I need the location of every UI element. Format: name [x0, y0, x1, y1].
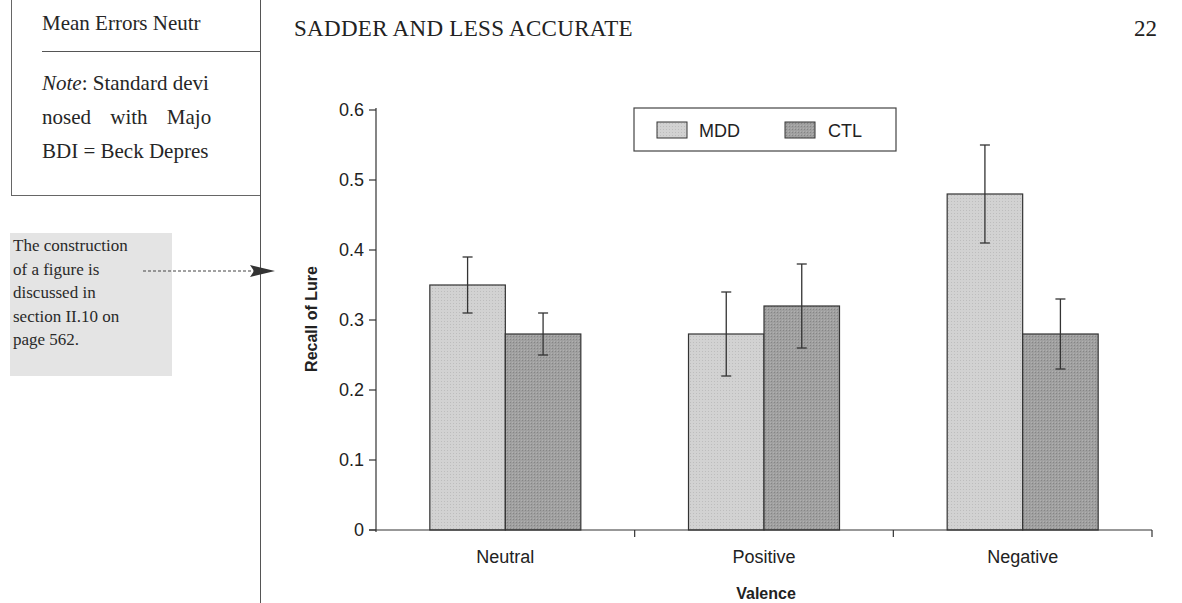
bar-chart: Recall of Lure Valence 00.10.20.30.40.50…	[0, 0, 1182, 603]
y-axis: 00.10.20.30.40.50.6	[339, 100, 376, 540]
bar-ctl	[505, 334, 581, 530]
y-axis-title: Recall of Lure	[303, 266, 320, 372]
bar-series	[430, 145, 1098, 530]
x-axis-title: Valence	[736, 585, 796, 602]
x-axis: NeutralPositiveNegative	[369, 530, 1152, 567]
x-tick-label: Negative	[987, 547, 1058, 567]
y-tick-label: 0.3	[339, 310, 364, 330]
y-tick-label: 0.2	[339, 380, 364, 400]
bar-mdd	[430, 285, 506, 530]
y-tick-label: 0.6	[339, 100, 364, 120]
y-tick-label: 0	[354, 520, 364, 540]
x-tick-label: Positive	[732, 547, 795, 567]
legend-swatch-ctl	[785, 122, 815, 138]
y-tick-label: 0.4	[339, 240, 364, 260]
x-tick-label: Neutral	[476, 547, 534, 567]
bar-mdd	[947, 194, 1023, 530]
y-tick-label: 0.5	[339, 170, 364, 190]
legend-label-ctl: CTL	[828, 121, 862, 141]
legend-label-mdd: MDD	[699, 121, 740, 141]
legend: MDD CTL	[634, 108, 896, 151]
legend-swatch-mdd	[657, 122, 687, 138]
y-tick-label: 0.1	[339, 450, 364, 470]
